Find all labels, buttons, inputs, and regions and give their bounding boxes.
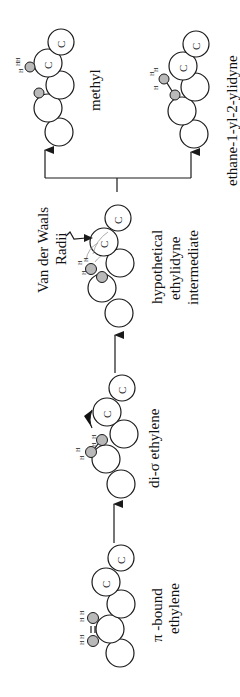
c11-label: C xyxy=(190,43,202,50)
carbon-atom xyxy=(34,88,44,98)
carbon-atom xyxy=(170,90,180,100)
c7-label: C xyxy=(98,241,110,248)
pi-bound-ethylene-structure: C C H H H H xyxy=(79,545,135,667)
pi-bound-label: π -bound ethylene xyxy=(149,583,182,642)
methyl-label-text: methyl xyxy=(87,69,103,111)
hydrogen-label: H xyxy=(91,434,97,439)
hydrogen-label: H xyxy=(91,442,97,447)
surface-atom xyxy=(107,470,135,498)
van-der-waals-radius-arc xyxy=(95,256,104,262)
hydrogen-label: H xyxy=(75,447,81,452)
pointer-line xyxy=(66,232,86,239)
hydrogen-label: H xyxy=(79,617,85,622)
c11-label: C xyxy=(116,387,128,394)
di-sigma-label-text: di-σ ethylene xyxy=(146,408,162,488)
pi-bound-label-line1: π -bound xyxy=(149,588,165,642)
ethane-ylidyne-label-text: ethane-1-yl-2-ylidyne xyxy=(224,55,240,186)
c11-label: C xyxy=(112,217,124,224)
c11-label: C xyxy=(55,41,67,48)
carbon-atom xyxy=(159,74,169,84)
hydrogen-label: H xyxy=(79,634,85,639)
carbon-atom xyxy=(86,447,97,458)
ethylidyne-label: hypothetical ethylidyne intermediate xyxy=(149,230,201,305)
hydrogen-label: H xyxy=(15,57,21,62)
ethylidyne-label-line1: hypothetical xyxy=(149,230,165,304)
pi-bound-label-line2: ethylene xyxy=(166,583,182,634)
c11-label: C xyxy=(115,557,127,564)
hydrogen-label: H xyxy=(79,610,85,615)
di-sigma-ethylene-structure: C C H H H H xyxy=(75,375,138,498)
carbon-atom xyxy=(97,272,108,283)
c7-label: C xyxy=(42,62,54,69)
ethane-ylidyne-structure: C C H H H xyxy=(149,31,209,148)
c7-label: C xyxy=(101,411,113,418)
ethylidyne-intermediate-structure: C C H H H xyxy=(77,205,134,327)
carbon-carbon-bond xyxy=(167,83,172,91)
van-der-waals-label-line2: Radii xyxy=(53,233,69,266)
hydrogen-label: H xyxy=(79,640,85,645)
methyl-structure: C C H H H xyxy=(15,29,74,146)
surface-atom xyxy=(96,615,124,643)
ethylidyne-label-line2: ethylidyne xyxy=(167,236,183,300)
van-der-waals-label-line1: Van der Waals xyxy=(35,207,51,293)
reaction-diagram: C C H H H H π -bound ethylene C C H H xyxy=(0,0,240,697)
ethylidyne-label-line3: intermediate xyxy=(185,230,201,305)
carbon-atom xyxy=(88,636,99,647)
ethane-ylidyne-label: ethane-1-yl-2-ylidyne xyxy=(224,55,240,186)
hydrogen-label: H xyxy=(79,455,85,460)
methyl-label: methyl xyxy=(87,69,103,111)
c7-label: C xyxy=(100,581,112,588)
surface-atom xyxy=(105,299,133,327)
di-sigma-label: di-σ ethylene xyxy=(146,408,162,488)
hydrogen-label: H xyxy=(83,257,89,262)
c7-label: C xyxy=(177,65,189,72)
carbon-atom xyxy=(88,613,99,624)
hydrogen-label: H xyxy=(18,68,24,73)
hydrogen-label: H xyxy=(153,67,159,72)
carbon-atom xyxy=(97,435,108,446)
hydrogen-label: H xyxy=(81,270,87,275)
carbon-atom xyxy=(25,62,35,72)
hydrogen-label: H xyxy=(153,85,159,90)
carbon-atom xyxy=(86,264,97,275)
van-der-waals-label: Van der Waals Radii xyxy=(35,207,69,293)
